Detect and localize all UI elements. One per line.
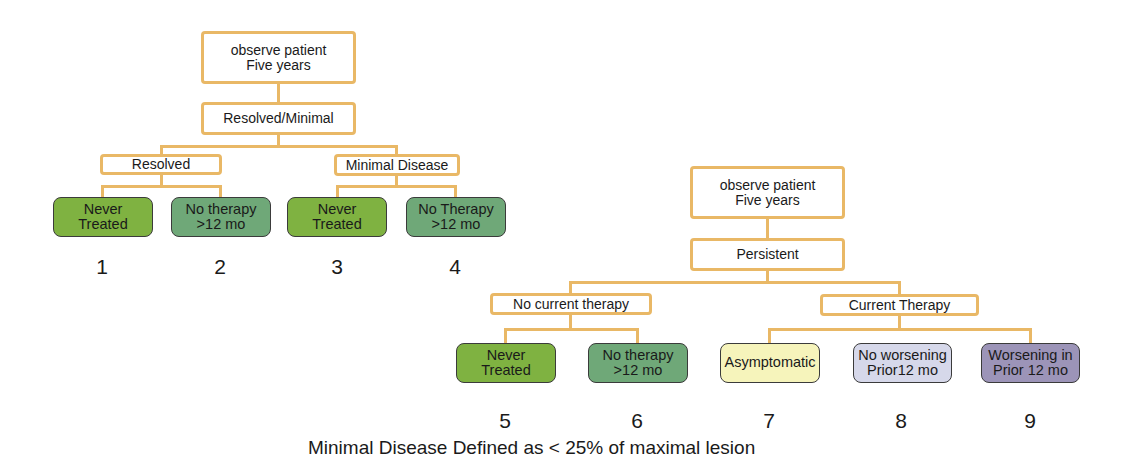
- footnote-caption: Minimal Disease Defined as < 25% of maxi…: [308, 437, 755, 459]
- leaf-no-therapy: No Therapy >12 mo: [406, 197, 506, 237]
- connector: [768, 328, 1032, 331]
- group-node-current-therapy: Current Therapy: [820, 294, 979, 316]
- category-number: 7: [754, 409, 784, 433]
- connector: [766, 218, 769, 238]
- group-node-minimal-disease: Minimal Disease: [334, 154, 460, 176]
- category-number: 8: [886, 409, 916, 433]
- connector: [504, 328, 638, 331]
- connector: [768, 328, 771, 343]
- connector: [219, 185, 222, 197]
- category-number: 5: [490, 409, 520, 433]
- connector: [277, 83, 280, 102]
- category-number: 4: [440, 255, 470, 279]
- connector: [101, 185, 221, 188]
- connector: [1029, 328, 1032, 343]
- leaf-never-treated: Never Treated: [456, 343, 556, 383]
- connector: [569, 281, 572, 293]
- leaf-no-therapy: No therapy >12 mo: [588, 343, 688, 383]
- branch-node-resolved-minimal: Resolved/Minimal: [201, 102, 356, 135]
- branch-node-persistent: Persistent: [690, 238, 845, 271]
- category-number: 6: [622, 409, 652, 433]
- connector: [636, 328, 639, 343]
- connector: [336, 185, 456, 188]
- category-number: 3: [322, 255, 352, 279]
- category-number: 9: [1015, 409, 1045, 433]
- connector: [454, 185, 457, 197]
- root-node-right: observe patient Five years: [690, 166, 845, 219]
- connector: [336, 185, 339, 197]
- leaf-no-worsening: No worsening Prior12 mo: [853, 343, 952, 383]
- leaf-no-therapy: No therapy >12 mo: [171, 197, 271, 237]
- group-node-resolved: Resolved: [100, 154, 222, 175]
- connector: [504, 328, 507, 343]
- connector: [898, 281, 901, 294]
- category-number: 2: [205, 255, 235, 279]
- root-node-left: observe patient Five years: [201, 31, 356, 84]
- leaf-asymptomatic: Asymptomatic: [720, 343, 820, 383]
- connector: [569, 281, 901, 284]
- connector: [160, 145, 398, 148]
- leaf-never-treated: Never Treated: [53, 197, 153, 237]
- group-node-no-current-therapy: No current therapy: [490, 293, 652, 315]
- category-number: 1: [87, 255, 117, 279]
- leaf-worsening: Worsening in Prior 12 mo: [981, 343, 1080, 383]
- connector: [101, 185, 104, 197]
- leaf-never-treated: Never Treated: [287, 197, 387, 237]
